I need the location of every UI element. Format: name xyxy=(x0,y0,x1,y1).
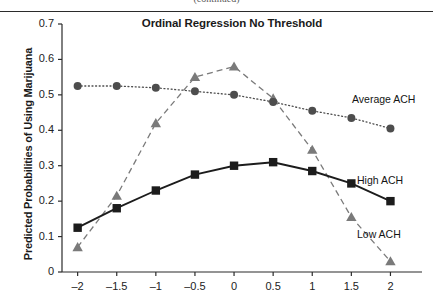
x-tick-label: –0.5 xyxy=(175,280,215,292)
series-annotation-average-ach: Average ACH xyxy=(352,93,415,105)
data-point-marker xyxy=(191,170,199,178)
figure-container: (continued) Ordinal Regression No Thresh… xyxy=(0,0,433,305)
y-tick-label: 0.3 xyxy=(20,159,54,171)
data-point-marker xyxy=(307,145,317,154)
y-tick-label: 0.7 xyxy=(20,17,54,29)
axis-ticks xyxy=(58,24,390,276)
data-point-marker xyxy=(308,167,316,175)
y-tick-label: 0.4 xyxy=(20,123,54,135)
data-point-marker xyxy=(269,98,277,106)
data-point-marker xyxy=(73,224,81,232)
x-tick-label: 2 xyxy=(370,280,410,292)
data-point-marker xyxy=(72,242,82,251)
x-tick-label: 1 xyxy=(292,280,332,292)
data-point-marker xyxy=(74,82,82,90)
x-tick-label: 1.5 xyxy=(331,280,371,292)
x-tick-label: –1 xyxy=(136,280,176,292)
data-point-marker xyxy=(230,91,238,99)
data-point-marker xyxy=(230,162,238,170)
x-tick-label: –1.5 xyxy=(97,280,137,292)
data-point-marker xyxy=(308,107,316,115)
data-point-marker xyxy=(113,82,121,90)
plot-area xyxy=(0,0,433,305)
series-annotation-high-ach: High ACH xyxy=(357,174,403,186)
data-series xyxy=(72,61,395,265)
y-tick-label: 0.1 xyxy=(20,230,54,242)
data-point-marker xyxy=(347,114,355,122)
data-point-marker xyxy=(347,179,355,187)
y-tick-label: 0 xyxy=(20,265,54,277)
data-point-marker xyxy=(152,84,160,92)
data-point-marker xyxy=(269,158,277,166)
y-tick-label: 0.5 xyxy=(20,88,54,100)
data-point-marker xyxy=(113,204,121,212)
x-tick-label: 0 xyxy=(214,280,254,292)
x-tick-label: 0.5 xyxy=(253,280,293,292)
series-average-ach xyxy=(74,82,395,133)
data-point-marker xyxy=(346,212,356,221)
data-point-marker xyxy=(152,186,160,194)
data-point-marker xyxy=(112,191,122,200)
series-annotation-low-ach: Low ACH xyxy=(357,228,401,240)
x-tick-label: –2 xyxy=(58,280,98,292)
y-tick-label: 0.6 xyxy=(20,52,54,64)
data-point-marker xyxy=(386,197,394,205)
data-point-marker xyxy=(229,61,239,70)
data-point-marker xyxy=(386,125,394,133)
y-tick-label: 0.2 xyxy=(20,194,54,206)
data-point-marker xyxy=(191,87,199,95)
